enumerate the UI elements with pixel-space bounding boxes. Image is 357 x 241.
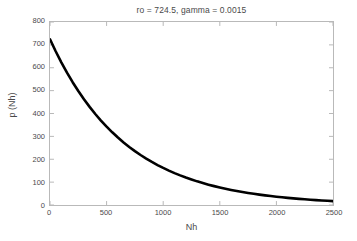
x-tick-label: 2000 bbox=[269, 209, 286, 217]
y-tick-label: 300 bbox=[32, 133, 45, 141]
chart-canvas bbox=[50, 22, 333, 205]
x-tick-label: 2500 bbox=[326, 209, 343, 217]
x-axis-label: Nh bbox=[49, 222, 334, 232]
y-tick-label: 600 bbox=[32, 64, 45, 72]
y-tick-label: 500 bbox=[32, 87, 45, 95]
chart-title: ro = 724.5, gamma = 0.0015 bbox=[49, 5, 334, 15]
y-tick-label: 800 bbox=[32, 17, 45, 25]
chart-figure: ro = 724.5, gamma = 0.0015 0100200300400… bbox=[0, 0, 357, 241]
x-axis-tick-labels: 05001000150020002500 bbox=[49, 209, 334, 221]
x-tick-label: 1500 bbox=[212, 209, 229, 217]
y-tick-label: 400 bbox=[32, 110, 45, 118]
y-axis-label: p (Nh) bbox=[7, 75, 17, 135]
y-tick-label: 100 bbox=[32, 179, 45, 187]
x-tick-label: 0 bbox=[47, 209, 51, 217]
tick-marks bbox=[50, 22, 333, 205]
y-tick-label: 700 bbox=[32, 40, 45, 48]
y-tick-label: 200 bbox=[32, 156, 45, 164]
x-tick-label: 1000 bbox=[155, 209, 172, 217]
x-tick-label: 500 bbox=[100, 209, 113, 217]
y-tick-label: 0 bbox=[41, 202, 45, 210]
data-series-curve bbox=[50, 39, 333, 201]
plot-area bbox=[49, 21, 334, 206]
